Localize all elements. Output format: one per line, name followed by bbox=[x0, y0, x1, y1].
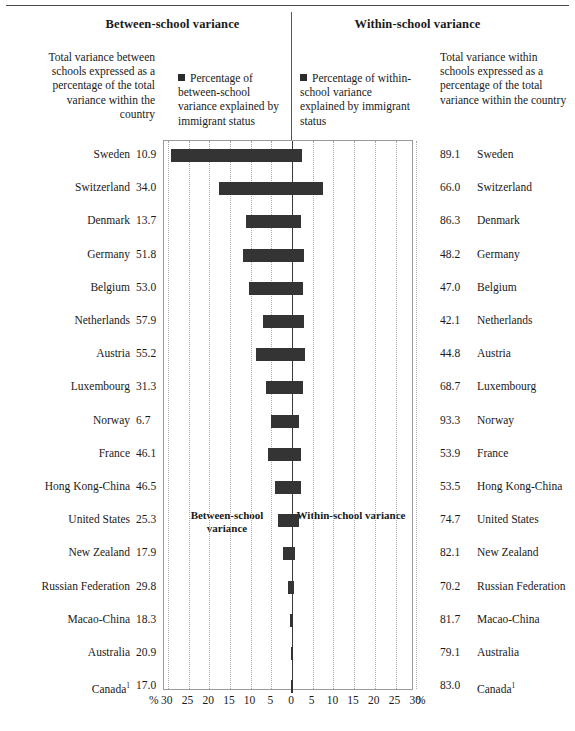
bar-switzerland bbox=[219, 182, 323, 195]
legend-between-school-label: Percentage of between-school variance ex… bbox=[178, 72, 279, 127]
right-column-description: Total variance within schools expressed … bbox=[440, 50, 570, 107]
row-country-right-10: Hong Kong-China bbox=[477, 480, 575, 493]
row-country-left-14: Macao-China bbox=[20, 613, 130, 626]
row-value-within-4: 47.0 bbox=[440, 281, 480, 294]
row-value-within-12: 82.1 bbox=[440, 546, 480, 559]
legend-swatch-icon bbox=[300, 74, 307, 81]
row-country-right-8: Norway bbox=[477, 414, 575, 427]
row-country-left-7: Luxembourg bbox=[20, 380, 130, 393]
row-value-between-0: 10.9 bbox=[136, 148, 176, 161]
row-country-left-5: Netherlands bbox=[20, 314, 130, 327]
left-column-description: Total variance between schools expressed… bbox=[30, 50, 155, 121]
chart-plot-area: Between-school variance Within-school va… bbox=[163, 140, 413, 690]
legend-within-school: Percentage of within-school variance exp… bbox=[300, 71, 418, 128]
row-country-right-1: Switzerland bbox=[477, 181, 575, 194]
gridline-20 bbox=[209, 141, 210, 689]
row-value-within-5: 42.1 bbox=[440, 314, 480, 327]
row-country-left-8: Norway bbox=[20, 414, 130, 427]
row-country-right-4: Belgium bbox=[477, 281, 575, 294]
row-value-between-4: 53.0 bbox=[136, 281, 176, 294]
gridline-10 bbox=[333, 141, 334, 689]
bar-canada bbox=[291, 680, 293, 693]
x-axis: 30252015105051015202530%% bbox=[0, 694, 575, 714]
row-country-right-6: Austria bbox=[477, 347, 575, 360]
row-value-between-11: 25.3 bbox=[136, 513, 176, 526]
row-country-right-2: Denmark bbox=[477, 214, 575, 227]
bar-germany bbox=[243, 249, 304, 262]
gridline-30 bbox=[416, 141, 417, 689]
row-value-within-7: 68.7 bbox=[440, 380, 480, 393]
bar-hong-kong-china bbox=[275, 481, 301, 494]
row-country-left-0: Sweden bbox=[20, 148, 130, 161]
row-country-right-12: New Zealand bbox=[477, 546, 575, 559]
axis-unit-left: % bbox=[149, 694, 159, 706]
row-value-between-9: 46.1 bbox=[136, 447, 176, 460]
row-value-between-15: 20.9 bbox=[136, 646, 176, 659]
top-rule bbox=[6, 5, 569, 6]
row-country-left-1: Switzerland bbox=[20, 181, 130, 194]
bar-austria bbox=[256, 348, 304, 361]
row-country-right-7: Luxembourg bbox=[477, 380, 575, 393]
row-value-within-11: 74.7 bbox=[440, 513, 480, 526]
bar-australia bbox=[291, 647, 293, 660]
legend-between-school: Percentage of between-school variance ex… bbox=[178, 71, 286, 128]
bar-russian-federation bbox=[288, 581, 293, 594]
row-value-within-1: 66.0 bbox=[440, 181, 480, 194]
row-country-right-13: Russian Federation bbox=[477, 580, 575, 593]
row-country-left-9: France bbox=[20, 447, 130, 460]
row-value-between-7: 31.3 bbox=[136, 380, 176, 393]
bar-netherlands bbox=[263, 315, 304, 328]
gridline-20 bbox=[375, 141, 376, 689]
row-country-left-12: New Zealand bbox=[20, 546, 130, 559]
row-country-left-6: Austria bbox=[20, 347, 130, 360]
row-value-within-9: 53.9 bbox=[440, 447, 480, 460]
row-value-within-8: 93.3 bbox=[440, 414, 480, 427]
row-value-between-10: 46.5 bbox=[136, 480, 176, 493]
row-value-between-1: 34.0 bbox=[136, 181, 176, 194]
row-value-within-14: 81.7 bbox=[440, 613, 480, 626]
bar-denmark bbox=[246, 215, 301, 228]
row-value-within-13: 70.2 bbox=[440, 580, 480, 593]
row-value-between-12: 17.9 bbox=[136, 546, 176, 559]
bar-belgium bbox=[249, 282, 303, 295]
gridline-15 bbox=[354, 141, 355, 689]
row-value-between-2: 13.7 bbox=[136, 214, 176, 227]
between-school-title: Between-school variance bbox=[55, 17, 290, 32]
row-value-between-13: 29.8 bbox=[136, 580, 176, 593]
row-value-within-15: 79.1 bbox=[440, 646, 480, 659]
gridline-25 bbox=[396, 141, 397, 689]
row-country-right-11: United States bbox=[477, 513, 575, 526]
row-value-between-14: 18.3 bbox=[136, 613, 176, 626]
row-value-within-2: 86.3 bbox=[440, 214, 480, 227]
row-country-right-15: Australia bbox=[477, 646, 575, 659]
row-value-within-16: 83.0 bbox=[440, 679, 480, 692]
gridline-25 bbox=[189, 141, 190, 689]
bar-macao-china bbox=[290, 614, 294, 627]
row-value-between-16: 17.0 bbox=[136, 679, 176, 692]
legend-within-school-label: Percentage of within-school variance exp… bbox=[300, 72, 411, 127]
row-country-left-11: United States bbox=[20, 513, 130, 526]
bar-luxembourg bbox=[266, 381, 303, 394]
row-country-right-9: France bbox=[477, 447, 575, 460]
row-country-right-3: Germany bbox=[477, 248, 575, 261]
row-country-right-5: Netherlands bbox=[477, 314, 575, 327]
row-value-within-10: 53.5 bbox=[440, 480, 480, 493]
gridline-5 bbox=[313, 141, 314, 689]
axis-unit-right: % bbox=[416, 694, 426, 706]
legend-swatch-icon bbox=[178, 74, 185, 81]
bar-france bbox=[268, 448, 301, 461]
header-divider bbox=[291, 12, 292, 140]
row-value-between-8: 6.7 bbox=[136, 414, 176, 427]
row-value-within-3: 48.2 bbox=[440, 248, 480, 261]
row-country-right-0: Sweden bbox=[477, 148, 575, 161]
row-value-between-5: 57.9 bbox=[136, 314, 176, 327]
row-country-left-4: Belgium bbox=[20, 281, 130, 294]
within-school-title: Within-school variance bbox=[300, 17, 535, 32]
bar-new-zealand bbox=[283, 547, 295, 560]
row-value-between-6: 55.2 bbox=[136, 347, 176, 360]
bar-united-states bbox=[278, 514, 300, 527]
row-country-left-15: Australia bbox=[20, 646, 130, 659]
row-country-left-13: Russian Federation bbox=[20, 580, 130, 593]
row-value-within-0: 89.1 bbox=[440, 148, 480, 161]
row-value-between-3: 51.8 bbox=[136, 248, 176, 261]
